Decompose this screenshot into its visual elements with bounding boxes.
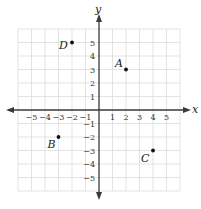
- x-axis-label: x: [192, 103, 199, 116]
- point-label: A: [114, 57, 123, 70]
- x-axis-left-arrow-icon: [6, 107, 14, 113]
- x-tick-label: 1: [110, 113, 115, 122]
- y-tick-label: −3: [83, 147, 95, 156]
- y-tick-label: −1: [83, 120, 95, 129]
- coordinate-plane: x y −5−4−3−2−11234554321−1−2−3−4−5 ABCD: [0, 0, 201, 209]
- x-tick-label: 5: [164, 113, 169, 122]
- y-tick-label: −5: [83, 174, 95, 183]
- y-tick-label: 4: [90, 52, 95, 61]
- point-marker: [151, 149, 155, 153]
- x-axis-right-arrow-icon: [183, 107, 191, 113]
- y-tick-label: 1: [90, 93, 95, 102]
- point-label: B: [47, 138, 56, 151]
- points: ABCD: [47, 39, 155, 165]
- x-tick-label: 3: [137, 113, 142, 122]
- y-axis-label: y: [94, 3, 102, 16]
- y-tick-label: 3: [90, 66, 95, 75]
- point-label: C: [141, 152, 150, 165]
- point-marker: [124, 68, 128, 72]
- x-tick-label: −3: [53, 113, 65, 122]
- x-tick-label: 4: [150, 113, 155, 122]
- y-tick-label: −4: [83, 160, 95, 169]
- point-d: D: [58, 39, 74, 52]
- x-tick-label: −4: [39, 113, 51, 122]
- y-tick-label: −2: [83, 133, 95, 142]
- point-marker: [70, 41, 74, 45]
- axes: x y: [6, 3, 199, 200]
- point-label: D: [58, 39, 68, 52]
- x-tick-label: 2: [123, 113, 128, 122]
- y-tick-label: 5: [90, 39, 95, 48]
- y-tick-label: 2: [90, 79, 95, 88]
- x-tick-label: −5: [26, 113, 38, 122]
- point-marker: [57, 135, 61, 139]
- y-axis-down-arrow-icon: [96, 192, 102, 200]
- x-tick-label: −2: [66, 113, 78, 122]
